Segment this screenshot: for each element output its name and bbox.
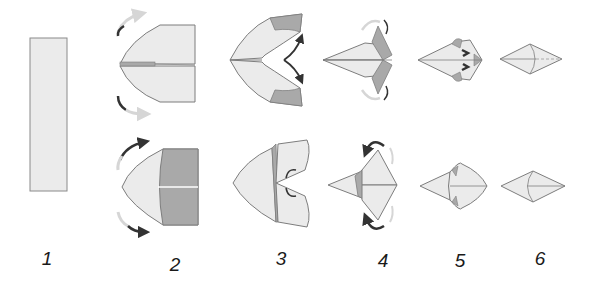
fold-arrow-icon: [390, 148, 393, 164]
step-label-4: 4: [378, 250, 389, 272]
step-label-6: 6: [535, 248, 546, 270]
step-label-3: 3: [276, 248, 287, 270]
step-4-bottom-fold: [328, 142, 397, 229]
fold-arrow-icon: [384, 86, 388, 100]
step-1-paper-strip: [30, 38, 67, 191]
fold-arrow-icon: [128, 226, 144, 232]
fold-arrow-icon: [366, 218, 384, 229]
fold-arrow-icon: [118, 212, 128, 226]
step-2-bottom-fold: [118, 142, 198, 232]
fold-arrow-icon: [284, 60, 301, 80]
step-5-bottom-fold: [420, 163, 487, 209]
step-3-bottom-fold: [233, 140, 309, 227]
origami-instruction-diagram: [0, 0, 595, 283]
fold-arrow-icon: [366, 142, 384, 152]
step-5-top-fold: [418, 39, 482, 82]
step-6-top-fold: [500, 44, 562, 74]
step-label-2: 2: [170, 254, 181, 276]
step-2-top-fold: [118, 14, 195, 114]
step-6-bottom-fold: [501, 171, 565, 202]
step-4-top-fold: [323, 20, 392, 100]
step-3-top-fold: [230, 14, 302, 106]
fold-arrow-icon: [390, 206, 393, 222]
fold-arrow-icon: [118, 96, 126, 110]
fold-arrow-icon: [118, 156, 122, 170]
fold-arrow-icon: [120, 142, 144, 160]
fold-arrow-icon: [126, 110, 144, 114]
fold-arrow-icon: [384, 20, 388, 34]
step-label-5: 5: [455, 250, 466, 272]
step-label-1: 1: [42, 248, 53, 270]
